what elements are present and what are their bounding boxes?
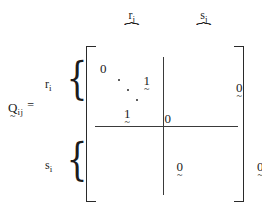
row-group-label-ri: ri [45,77,52,92]
matrix-symbol-subscript: ij [18,107,24,117]
ellipsis-dot [118,79,120,81]
block-top-right-zero: 0 ~ [236,81,243,94]
row-group-label-si: si [45,158,52,173]
matrix-symbol-Q: Q ~ [8,101,18,114]
ellipsis-dot [136,99,138,101]
under-tilde-icon: ~ [125,117,130,127]
block-top-left-entry-0-upper-left: 0 [100,62,107,75]
ellipsis-dot [127,89,129,91]
equation-left-hand-side: Q ~ ij = [8,101,34,116]
column-group-1-letter: r [129,8,133,22]
matrix-left-bracket [86,46,96,202]
under-tilde-icon: ~ [177,170,182,180]
block-top-left-entry-1-upper-right: 1 ~ [144,74,151,87]
figure-canvas: Q ~ ij = rj ⏞ sj ⏞ ri { si { 0 1 ~ 1 ~ [0,0,262,221]
row-group-2-subscript: i [50,164,53,174]
block-top-left-entry-3-lower-right: 0 [165,112,172,125]
matrix-horizontal-partition-rule [95,126,238,127]
row-group-1-subscript: i [49,83,52,93]
block-bottom-left-zero: 0 ~ [177,160,184,173]
under-tilde-icon: ~ [258,170,262,180]
matrix-right-bracket [234,46,244,202]
entry-value: 0 [165,111,172,126]
row-group-2-letter: s [45,158,50,172]
block-top-left-entry-2-lower-left: 1 ~ [124,107,131,120]
under-tilde-icon: ~ [237,91,242,101]
under-tilde-icon: ~ [10,111,16,121]
row-brace-ri-icon: { [67,57,88,101]
under-tilde-icon: ~ [144,84,149,94]
overbrace-sj-icon: ⏞ [168,22,240,36]
equals-sign: = [27,98,34,113]
block-bottom-right-zero: 0 ~ [257,160,262,173]
row-brace-si-icon: { [67,138,88,182]
overbrace-rj-icon: ⏞ [94,22,170,36]
entry-value: 0 [100,61,107,76]
